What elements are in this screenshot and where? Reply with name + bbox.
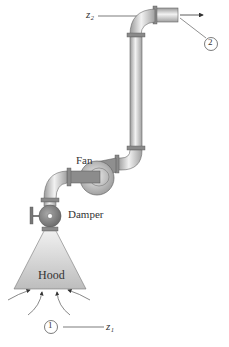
- point-1-marker: [45, 321, 105, 334]
- point-1-label: 1: [48, 320, 53, 330]
- damper-valve[interactable]: [30, 205, 61, 231]
- top-elbow: [127, 9, 155, 37]
- z2-label: z₂: [86, 8, 94, 20]
- damper-handle-bar: [30, 207, 33, 224]
- exit-pipe: [153, 6, 178, 24]
- duct-system-diagram: [0, 0, 229, 347]
- z1-label: z₁: [106, 320, 114, 332]
- inflow-arrows: [8, 290, 90, 315]
- fan-label: Fan: [76, 154, 93, 166]
- damper-label: Damper: [68, 208, 103, 220]
- damper-elbow: [41, 171, 67, 206]
- hood-label: Hood: [38, 268, 65, 283]
- point-2-label: 2: [208, 37, 213, 47]
- vertical-riser-pipe: [127, 37, 145, 150]
